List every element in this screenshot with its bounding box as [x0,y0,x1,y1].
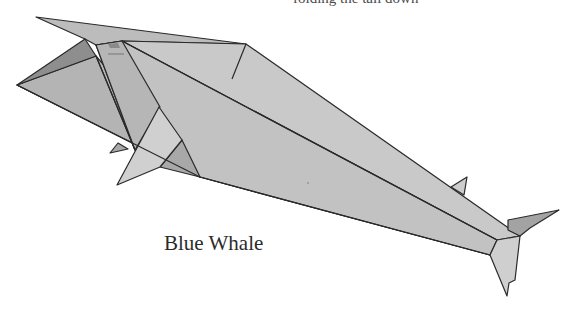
origami-whale-diagram [0,0,577,312]
whale-lower-fluke [490,236,520,296]
paper-speck [307,182,309,184]
whale-rear-flipper [110,143,128,153]
diagram-label: Blue Whale [164,231,263,256]
whale-upper-fluke [508,210,559,236]
whale-upper-head-panel [36,17,246,45]
